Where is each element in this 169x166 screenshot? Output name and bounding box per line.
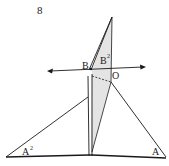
label-a2-superscript: 2: [30, 145, 33, 151]
point-b: [90, 68, 92, 70]
arrowhead-left-icon: [47, 69, 53, 74]
label-o: O: [112, 70, 119, 81]
base-line: [6, 155, 166, 158]
geometry-diagram: 8 B B 2 O A 2 A: [0, 0, 169, 166]
arrowhead-right-icon: [140, 65, 146, 70]
vertical-post-left: [88, 76, 89, 156]
label-b: B: [82, 60, 89, 71]
label-a: A: [152, 146, 160, 157]
label-b2-superscript: 2: [107, 53, 110, 59]
left-triangle-edge: [6, 97, 88, 157]
shaded-triangle: [91, 17, 112, 156]
figure-number: 8: [37, 4, 43, 16]
label-a2: A: [22, 146, 30, 157]
label-b2: B: [100, 55, 107, 66]
